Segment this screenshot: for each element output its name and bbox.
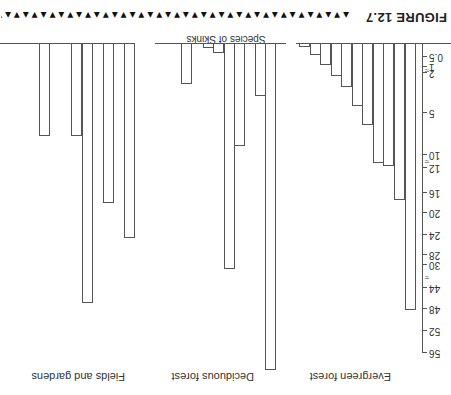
figure-canvas: FIGURE 12.7 ▲▼▲▼▲▼▲▼▲▼▲▼▲▼▲▼▲▼▲▼▲▼▲▼▲▼▲▼… bbox=[0, 0, 451, 395]
axis-break-icon: ≈ bbox=[425, 273, 429, 282]
y-tick bbox=[423, 287, 427, 288]
bar bbox=[203, 43, 214, 48]
y-tick-label: 12 bbox=[429, 163, 451, 174]
bar bbox=[373, 43, 384, 163]
bar bbox=[181, 43, 192, 84]
y-tick-label: 48 bbox=[429, 304, 451, 315]
y-tick bbox=[423, 154, 427, 155]
bar bbox=[39, 43, 50, 136]
y-tick bbox=[423, 352, 427, 353]
bar bbox=[213, 43, 224, 53]
y-tick bbox=[423, 212, 427, 213]
y-tick-label: 16 bbox=[429, 188, 451, 199]
bar bbox=[362, 43, 373, 125]
bar bbox=[299, 43, 310, 47]
bar bbox=[394, 43, 405, 200]
group-label-fields: Fields and gardens bbox=[31, 371, 125, 383]
bar bbox=[224, 43, 235, 269]
bar bbox=[82, 43, 93, 303]
y-tick bbox=[423, 112, 427, 113]
y-tick bbox=[423, 192, 427, 193]
figure-title: FIGURE 12.7 bbox=[366, 10, 447, 25]
y-tick-label: 10 bbox=[429, 150, 451, 161]
y-tick bbox=[423, 254, 427, 255]
bar bbox=[71, 43, 82, 136]
bar bbox=[383, 43, 394, 166]
y-tick-label: 2 bbox=[429, 68, 451, 79]
bar bbox=[405, 43, 416, 310]
axis-break-icon: ≈ bbox=[425, 157, 429, 166]
bar bbox=[255, 43, 266, 96]
triangle-decoration: ▲▼▲▼▲▼▲▼▲▼▲▼▲▼▲▼▲▼▲▼▲▼▲▼▲▼▲▼▲▼▲▼▲▼▲▼▲▼▲▼… bbox=[1, 10, 351, 20]
y-tick-label: 30 bbox=[429, 260, 451, 271]
bar bbox=[310, 43, 321, 55]
y-tick bbox=[423, 264, 427, 265]
bar bbox=[265, 43, 276, 370]
bar bbox=[331, 43, 342, 76]
y-tick-label: 56 bbox=[429, 348, 451, 359]
bar bbox=[234, 43, 245, 146]
y-tick bbox=[423, 56, 427, 57]
group-label-deciduous: Deciduous forest bbox=[171, 371, 254, 383]
bar bbox=[341, 43, 352, 87]
y-axis bbox=[422, 43, 423, 353]
y-tick-label: 24 bbox=[429, 230, 451, 241]
bar bbox=[124, 43, 135, 238]
y-tick bbox=[423, 234, 427, 235]
y-tick-label: 5 bbox=[429, 108, 451, 119]
group-label-evergreen: Evergreen forest bbox=[310, 371, 391, 383]
y-tick-label: 44 bbox=[429, 283, 451, 294]
y-tick-label: 20 bbox=[429, 208, 451, 219]
axis-break-icon: ≈ bbox=[425, 66, 429, 75]
bar bbox=[103, 43, 114, 203]
figure-header: FIGURE 12.7 ▲▼▲▼▲▼▲▼▲▼▲▼▲▼▲▼▲▼▲▼▲▼▲▼▲▼▲▼… bbox=[0, 5, 451, 29]
bar bbox=[352, 43, 363, 106]
y-tick bbox=[423, 330, 427, 331]
y-tick bbox=[423, 167, 427, 168]
y-tick-label: 52 bbox=[429, 326, 451, 337]
bar bbox=[320, 43, 331, 65]
y-tick bbox=[423, 308, 427, 309]
